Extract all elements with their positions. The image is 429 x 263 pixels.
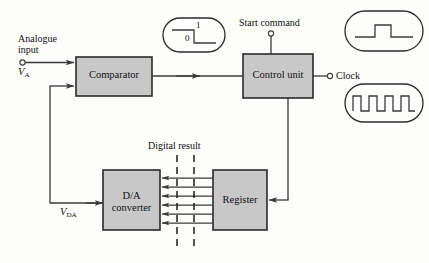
v-a-subscript: A	[24, 71, 29, 79]
waveform-level-high-label: 1	[196, 20, 201, 30]
block-label-da-converter: D/A converter	[103, 190, 160, 214]
da-label-line1: D/A	[122, 190, 140, 201]
v-da-label: VDA	[60, 206, 77, 219]
analogue-input-wire	[20, 60, 74, 65]
adc-block-diagram: Comparator Control unit D/A converter Re…	[0, 0, 429, 263]
feedback-wire-vda	[49, 86, 103, 204]
comparator-output-waveform	[163, 18, 225, 52]
v-a-label: VA	[18, 66, 30, 79]
clock-wire	[313, 73, 333, 78]
control-to-register-wire	[269, 98, 289, 200]
diagram-canvas	[0, 0, 429, 263]
block-label-comparator: Comparator	[76, 69, 152, 81]
clock-waveform	[345, 84, 423, 122]
waveform-level-low-label: 0	[185, 33, 190, 43]
digital-result-dashed-markers	[177, 155, 194, 248]
start-command-waveform	[345, 11, 423, 51]
start-command-label: Start command	[239, 17, 300, 28]
da-label-line2: converter	[112, 202, 152, 213]
analogue-input-line1: Analogue	[18, 33, 57, 44]
block-label-register: Register	[213, 194, 267, 206]
block-label-control-unit: Control unit	[243, 69, 313, 81]
digital-result-bus	[162, 178, 213, 223]
analogue-input-line2: input	[18, 44, 39, 55]
clock-label: Clock	[336, 70, 360, 81]
v-da-subscript: DA	[66, 211, 76, 219]
start-command-wire	[268, 31, 273, 54]
analogue-input-label: Analogue input	[18, 33, 57, 55]
digital-result-label: Digital result	[148, 140, 201, 151]
